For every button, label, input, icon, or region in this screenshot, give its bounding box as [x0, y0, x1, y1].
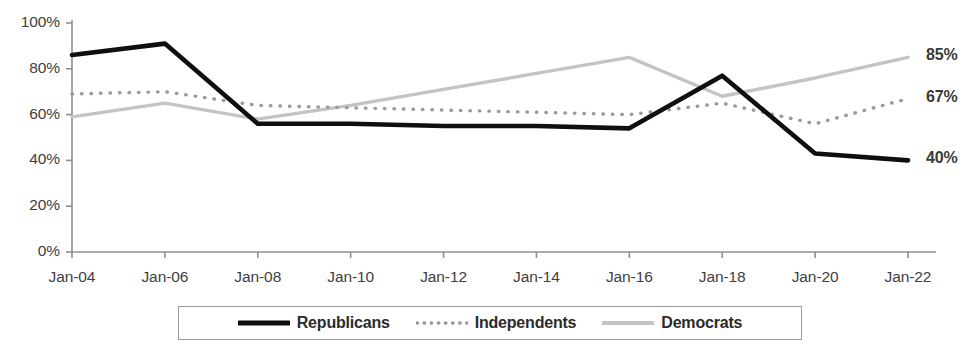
legend-item-republicans[interactable]: Republicans [238, 314, 390, 332]
end-label-democrats: 85% [926, 46, 957, 64]
x-axis-tick-label: Jan-04 [24, 268, 120, 286]
y-axis-tick-label: 20% [2, 196, 60, 214]
x-axis-tick-label: Jan-08 [210, 268, 306, 286]
solid-thick-swatch [238, 318, 290, 328]
x-axis-tick-label: Jan-18 [674, 268, 770, 286]
end-label-republicans: 40% [926, 149, 957, 167]
solid-light-swatch [602, 318, 654, 328]
legend-item-label: Independents [475, 314, 577, 332]
y-axis-tick-label: 60% [2, 105, 60, 123]
x-axis-tick-label: Jan-06 [117, 268, 213, 286]
chart-legend: RepublicansIndependentsDemocrats [178, 306, 802, 340]
y-axis-tick-label: 40% [2, 150, 60, 168]
x-axis-tick-label: Jan-20 [767, 268, 863, 286]
legend-item-label: Republicans [297, 314, 390, 332]
x-axis-tick-label: Jan-16 [581, 268, 677, 286]
x-axis-tick-label: Jan-22 [860, 268, 956, 286]
legend-item-democrats[interactable]: Democrats [602, 314, 742, 332]
end-label-independents: 67% [926, 88, 957, 106]
legend-item-label: Democrats [661, 314, 742, 332]
series-line-republicans [72, 44, 908, 161]
y-axis-tick-label: 80% [2, 59, 60, 77]
x-axis-tick-label: Jan-14 [488, 268, 584, 286]
y-axis-tick-label: 0% [2, 242, 60, 260]
x-axis-tick-label: Jan-10 [303, 268, 399, 286]
legend-item-independents[interactable]: Independents [416, 314, 577, 332]
chart-plot-area [0, 0, 980, 346]
line-chart: 0%20%40%60%80%100% Jan-04Jan-06Jan-08Jan… [0, 0, 980, 346]
dotted-swatch [416, 318, 468, 328]
x-axis-tick-label: Jan-12 [396, 268, 492, 286]
y-axis-tick-label: 100% [2, 13, 60, 31]
y-axis-ticks [66, 23, 72, 252]
x-axis-ticks [72, 252, 908, 258]
